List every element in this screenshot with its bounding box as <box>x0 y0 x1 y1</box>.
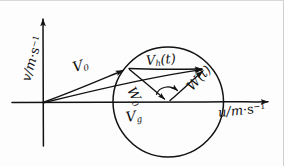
label-vh: Vh(t) <box>145 52 176 69</box>
label-vg: Vg <box>125 108 143 126</box>
vector-v-total <box>44 70 203 103</box>
label-v0: V0 <box>71 56 90 75</box>
angle-arc-at-center <box>157 87 178 94</box>
vector-vh <box>129 69 202 70</box>
velocity-vector-diagram: v/m·s−1 u/m·s−1 V0 Vh(t) W0 W(t) Vg <box>0 0 284 166</box>
